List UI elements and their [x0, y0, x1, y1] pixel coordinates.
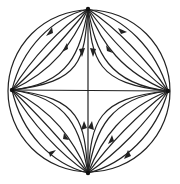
arrow-icon [106, 45, 113, 53]
arrow-icon [81, 121, 87, 130]
node-right [166, 89, 170, 93]
horizontal-axis [12, 90, 168, 91]
arrow-icon [88, 121, 94, 130]
bottom-left-trajectories [12, 90, 88, 173]
node-bottom [86, 171, 90, 175]
node-left [10, 88, 14, 92]
node-top [86, 7, 90, 11]
top-left-trajectories [12, 9, 88, 90]
phase-portrait-svg [0, 0, 180, 184]
arrow-icon [62, 43, 68, 52]
arrow-icon [118, 28, 127, 34]
phase-portrait-diagram [0, 0, 180, 184]
top-right-trajectories [88, 9, 168, 91]
bottom-right-trajectories [88, 91, 168, 173]
